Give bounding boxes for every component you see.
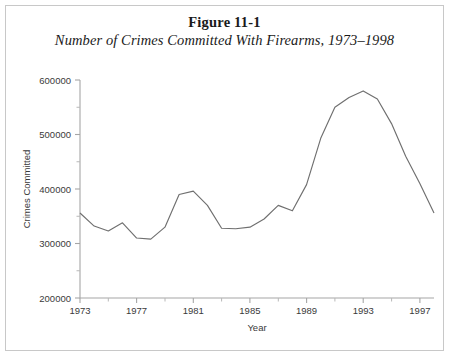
y-axis-tick-labels: 600000 500000 400000 300000 200000 — [39, 75, 71, 304]
axis-lines — [80, 80, 434, 298]
x-tick-label-2: 1981 — [183, 305, 204, 316]
x-tick-label-5: 1993 — [353, 305, 374, 316]
y-axis-title: Crimes Committed — [21, 150, 32, 229]
x-tick-label-1: 1977 — [126, 305, 147, 316]
data-series-line — [80, 91, 434, 239]
y-tick-label-1: 500000 — [39, 129, 71, 140]
y-tick-label-2: 400000 — [39, 184, 71, 195]
y-axis-major-ticks — [75, 80, 80, 298]
x-axis-major-ticks — [80, 298, 420, 303]
chart-plot-area: 600000 500000 400000 300000 200000 Crime… — [6, 6, 445, 352]
y-tick-label-0: 600000 — [39, 75, 71, 86]
x-tick-label-0: 1973 — [69, 305, 90, 316]
y-tick-label-3: 300000 — [39, 238, 71, 249]
x-tick-label-4: 1989 — [296, 305, 317, 316]
y-tick-label-4: 200000 — [39, 293, 71, 304]
axis-frame-path — [80, 80, 434, 298]
line-chart-svg: 600000 500000 400000 300000 200000 Crime… — [6, 6, 445, 352]
x-tick-label-3: 1985 — [239, 305, 260, 316]
figure-frame: Figure 11-1 Number of Crimes Committed W… — [5, 5, 444, 351]
x-tick-label-6: 1997 — [409, 305, 430, 316]
x-axis-title: Year — [247, 322, 266, 333]
x-axis-tick-labels: 1973 1977 1981 1985 1989 1993 1997 — [69, 305, 430, 316]
